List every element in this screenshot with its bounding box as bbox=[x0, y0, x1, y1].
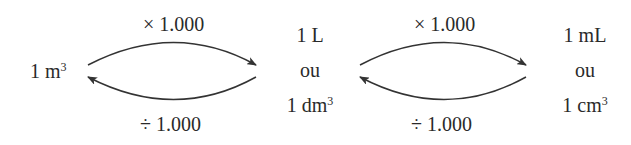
node-cubic-meter: 1 m3 bbox=[30, 54, 67, 89]
arrow-m3-to-L bbox=[88, 43, 256, 66]
node-liter: 1 L ou 1 dm3 bbox=[280, 18, 340, 123]
node-milliliter: 1 mL ou 1 cm3 bbox=[552, 18, 618, 123]
label-divide-L-to-m3: ÷ 1.000 bbox=[140, 112, 201, 136]
arrow-L-to-mL bbox=[360, 43, 526, 66]
node-line: ou bbox=[552, 53, 618, 88]
node-line: 1 mL bbox=[552, 18, 618, 53]
node-line: 1 m3 bbox=[30, 54, 67, 89]
node-line: 1 L bbox=[280, 18, 340, 53]
label-multiply-L-to-mL: × 1.000 bbox=[414, 12, 475, 36]
node-line: 1 dm3 bbox=[280, 88, 340, 123]
arrow-L-to-m3 bbox=[88, 77, 256, 100]
node-line: ou bbox=[280, 53, 340, 88]
label-multiply-m3-to-L: × 1.000 bbox=[143, 12, 204, 36]
node-line: 1 cm3 bbox=[552, 88, 618, 123]
label-divide-mL-to-L: ÷ 1.000 bbox=[411, 112, 472, 136]
arrow-mL-to-L bbox=[360, 77, 526, 100]
